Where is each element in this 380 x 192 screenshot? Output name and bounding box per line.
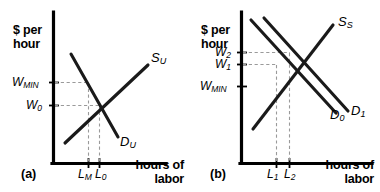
panel-b-label-l2: L2 (284, 168, 295, 181)
panel-b-label-l2-base: L (284, 167, 291, 181)
panel-b-label-w1: W1 (215, 58, 231, 71)
panel-b-curve-label-ss: SS (338, 15, 353, 29)
panel-a: $ per hour hours of labor (a) WMIN W0 LM… (0, 0, 190, 192)
panel-a-x-axis-title-line2: labor (154, 172, 184, 186)
panel-b-curve-label-d0-base: D (330, 107, 339, 122)
panel-a-y-axis-title-line1: $ per (13, 23, 42, 37)
panel-b-curve-label-ss-base: S (338, 14, 347, 29)
panel-a-x-axis-title-line1: hours of (136, 158, 184, 172)
panel-a-label-w0-base: W (26, 98, 37, 112)
panel-b-curve-label-d1: D1 (351, 104, 365, 118)
panel-b-label-wmin: WMIN (200, 80, 227, 93)
panel-b-curve-label-d1-base: D (351, 103, 360, 118)
panel-a-x-axis-title: hours of labor (104, 159, 184, 186)
panel-b-label-w1-base: W (215, 57, 226, 71)
panel-a-y-axis-title-line2: hour (13, 37, 40, 51)
panel-b-x-axis-title-line2: labor (344, 172, 374, 186)
panel-b-x-axis-title-line1: hours of (326, 158, 374, 172)
panel-b-curve-label-ss-sub: S (347, 20, 353, 30)
panel-a-label-w0-sub: 0 (37, 103, 42, 113)
panel-b-curve-label-d1-sub: 1 (360, 109, 365, 119)
panel-b-label-l1-base: L (267, 167, 274, 181)
panel-a-label-l0-sub: 0 (102, 172, 107, 182)
panel-a-label-lm-base: L (78, 167, 85, 181)
panel-b: $ per hour hours of labor (b) W2 W1 WMIN… (190, 0, 380, 192)
panel-a-curve-label-su: SU (151, 51, 166, 65)
panel-a-label-lm-sub: M (85, 172, 92, 182)
panel-b-label-l1-sub: 1 (274, 172, 279, 182)
panel-a-curve-label-du: DU (120, 135, 136, 149)
panel-a-curve-label-du-sub: U (129, 140, 135, 150)
panel-a-curve-label-su-sub: U (160, 56, 166, 66)
demand-curve-du (71, 54, 118, 137)
supply-curve-su (65, 65, 148, 143)
panel-a-curve-label-su-base: S (151, 50, 160, 65)
panel-b-x-axis-title: hours of labor (294, 159, 374, 186)
panel-a-label-wmin-sub: MIN (23, 80, 38, 90)
panel-b-y-axis-title-line1: $ per (201, 23, 230, 37)
panel-a-curve-label-du-base: D (120, 134, 129, 149)
panel-a-label-wmin-base: W (12, 75, 23, 89)
panel-a-label-l0-base: L (95, 167, 102, 181)
panel-a-label-l0: L0 (95, 168, 106, 181)
panel-b-label-wmin-base: W (200, 79, 211, 93)
panel-b-curve-label-d0-sub: 0 (339, 113, 344, 123)
panel-a-label-lm: LM (78, 168, 92, 181)
panel-a-tag: (a) (21, 168, 36, 182)
panel-a-y-axis-title: $ per hour (13, 24, 42, 51)
labor-market-figure: $ per hour hours of labor (a) WMIN W0 LM… (0, 0, 380, 192)
panel-b-label-l1: L1 (267, 168, 278, 181)
supply-curve-ss (253, 25, 333, 129)
panel-a-label-w0: W0 (26, 99, 42, 112)
demand-curve-d0 (251, 20, 336, 113)
panel-b-label-l2-sub: 2 (291, 172, 296, 182)
panel-b-label-wmin-sub: MIN (211, 84, 226, 94)
panel-a-label-wmin: WMIN (12, 76, 39, 89)
panel-b-curve-label-d0: D0 (330, 108, 344, 122)
panel-b-tag: (b) (210, 168, 226, 182)
panel-b-label-w1-sub: 1 (226, 62, 231, 72)
